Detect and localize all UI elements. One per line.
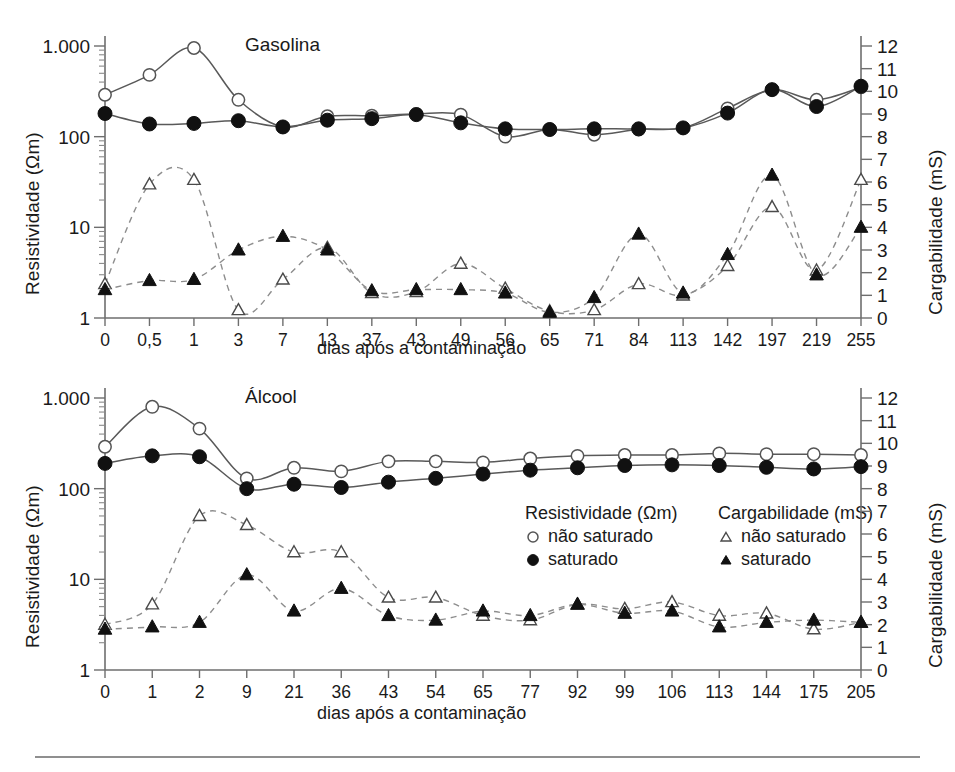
data-point-marker xyxy=(188,42,200,54)
x-tick-label: 49 xyxy=(451,330,470,350)
data-point-marker xyxy=(276,120,290,134)
y-tick-label-left: 1.000 xyxy=(42,36,90,57)
y-tick-label-right: 4 xyxy=(877,217,888,238)
data-point-marker xyxy=(276,229,290,241)
data-point-marker xyxy=(146,401,158,413)
data-point-marker xyxy=(430,591,442,602)
y-tick-label-right: 1 xyxy=(877,637,888,658)
data-point-marker xyxy=(232,243,246,255)
y-tick-label-right: 12 xyxy=(877,36,898,57)
x-tick-label: 21 xyxy=(284,682,303,702)
data-point-marker xyxy=(382,608,396,620)
data-point-marker xyxy=(287,604,301,616)
data-point-marker xyxy=(98,456,112,470)
x-tick-label: 142 xyxy=(713,330,742,350)
data-point-marker xyxy=(145,620,159,632)
data-point-marker xyxy=(454,282,468,294)
y-tick-label-right: 5 xyxy=(877,547,888,568)
data-point-marker xyxy=(665,458,679,472)
y-tick-label-right: 7 xyxy=(877,149,888,170)
data-point-marker xyxy=(193,450,207,464)
x-tick-label: 84 xyxy=(629,330,649,350)
x-tick-label: 99 xyxy=(615,682,634,702)
data-point-marker xyxy=(523,608,537,620)
data-point-marker xyxy=(476,467,490,481)
data-point-marker xyxy=(455,257,467,268)
data-point-marker xyxy=(571,450,583,462)
data-point-marker xyxy=(145,449,159,463)
x-tick-label: 36 xyxy=(332,682,351,702)
y-tick-label-right: 0 xyxy=(877,660,888,681)
data-point-marker xyxy=(765,168,779,180)
x-tick-label: 77 xyxy=(521,682,540,702)
x-tick-label: 56 xyxy=(496,330,515,350)
data-point-marker xyxy=(854,220,868,232)
data-point-marker xyxy=(810,100,824,114)
data-point-marker xyxy=(334,581,348,593)
data-point-marker xyxy=(588,304,600,315)
data-point-marker xyxy=(543,122,557,136)
x-tick-label: 92 xyxy=(568,682,587,702)
y-tick-label-right: 4 xyxy=(877,569,888,590)
data-point-marker xyxy=(193,615,207,627)
plot-area-gasolina: 1101001.000012345678910111200,5137133743… xyxy=(0,0,955,372)
data-point-marker xyxy=(454,116,468,130)
x-tick-label: 43 xyxy=(407,330,426,350)
x-tick-label: 113 xyxy=(669,330,697,350)
x-tick-label: 255 xyxy=(846,330,875,350)
x-tick-label: 37 xyxy=(362,330,381,350)
figure-root: Resistividade (Ωm) Cargabilidade (mS) Ga… xyxy=(0,0,955,772)
data-point-marker xyxy=(365,112,379,126)
data-point-marker xyxy=(288,462,300,474)
data-point-marker xyxy=(193,509,205,520)
data-point-marker xyxy=(193,422,205,434)
y-tick-label-left: 1.000 xyxy=(42,388,90,409)
data-point-marker xyxy=(232,94,244,106)
data-point-marker xyxy=(760,460,774,474)
x-tick-label: 13 xyxy=(318,330,337,350)
data-point-marker xyxy=(187,116,201,130)
data-point-marker xyxy=(571,597,585,609)
data-point-marker xyxy=(807,462,821,476)
data-point-marker xyxy=(241,519,253,530)
data-point-marker xyxy=(854,615,868,627)
series-line xyxy=(105,575,861,629)
y-tick-label-right: 10 xyxy=(877,433,898,454)
data-point-marker xyxy=(99,89,111,101)
data-point-marker xyxy=(713,447,725,459)
y-tick-label-right: 3 xyxy=(877,592,888,613)
data-point-marker xyxy=(143,273,157,285)
x-tick-label: 43 xyxy=(379,682,398,702)
series-line xyxy=(105,167,861,314)
data-point-marker xyxy=(187,272,201,284)
data-point-marker xyxy=(676,286,690,298)
data-point-marker xyxy=(632,227,646,239)
y-tick-label-right: 0 xyxy=(877,308,888,329)
x-tick-label: 7 xyxy=(278,330,288,350)
data-point-marker xyxy=(99,441,111,453)
data-point-marker xyxy=(808,448,820,460)
y-tick-label-right: 11 xyxy=(877,59,897,80)
data-point-marker xyxy=(409,282,423,294)
y-tick-label-right: 7 xyxy=(877,501,888,522)
y-tick-label-right: 9 xyxy=(877,104,888,125)
y-tick-label-left: 1 xyxy=(79,308,90,329)
data-point-marker xyxy=(382,475,396,489)
x-tick-label: 219 xyxy=(802,330,831,350)
x-tick-label: 3 xyxy=(234,330,244,350)
data-point-marker xyxy=(760,448,772,460)
chart-panel-alcool: Resistividade (Ωm) Cargabilidade (mS) Ál… xyxy=(0,348,955,738)
data-point-marker xyxy=(766,201,778,212)
y-tick-label-left: 10 xyxy=(69,569,90,590)
data-point-marker xyxy=(98,107,112,121)
data-point-marker xyxy=(765,83,779,97)
data-point-marker xyxy=(231,114,245,128)
footer-rule xyxy=(35,756,920,758)
data-point-marker xyxy=(476,604,490,616)
x-tick-label: 54 xyxy=(426,682,446,702)
y-tick-label-right: 1 xyxy=(877,285,888,306)
y-tick-label-right: 8 xyxy=(877,479,888,500)
x-tick-label: 175 xyxy=(799,682,828,702)
series-line xyxy=(105,86,861,129)
x-tick-label: 205 xyxy=(846,682,875,702)
